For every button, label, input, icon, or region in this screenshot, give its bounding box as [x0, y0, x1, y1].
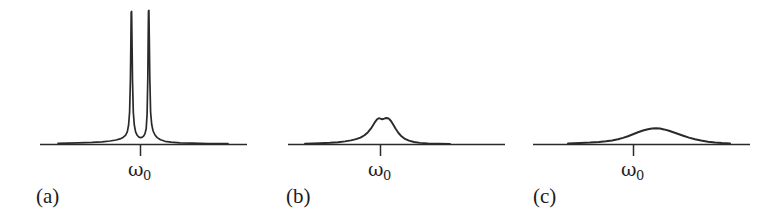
figure-spectral-lineshapes: ω0 (a) ω0 (b) ω0 (c)	[0, 0, 761, 220]
panel-b-omega-label: ω0	[368, 158, 391, 183]
panel-b-omega-subscript: 0	[383, 168, 391, 183]
panel-a-omega-symbol: ω	[128, 158, 144, 180]
panel-a-curve-doublet	[58, 11, 228, 144]
panel-b-curve-broad	[305, 118, 450, 144]
panel-c-omega-symbol: ω	[621, 158, 637, 180]
panel-a-tag: (a)	[36, 184, 59, 209]
panel-c-omega-subscript: 0	[636, 168, 644, 183]
panel-c-curve-gaussian	[568, 128, 730, 143]
panel-a-omega-label: ω0	[128, 158, 151, 183]
panel-c: ω0 (c)	[500, 0, 761, 220]
panel-b-tag: (b)	[286, 184, 311, 209]
panel-b: ω0 (b)	[250, 0, 511, 220]
panel-c-tag: (c)	[533, 184, 556, 209]
panel-a: ω0 (a)	[0, 0, 261, 220]
panel-c-omega-label: ω0	[621, 158, 644, 183]
panel-a-omega-subscript: 0	[143, 168, 151, 183]
panel-b-omega-symbol: ω	[368, 158, 384, 180]
